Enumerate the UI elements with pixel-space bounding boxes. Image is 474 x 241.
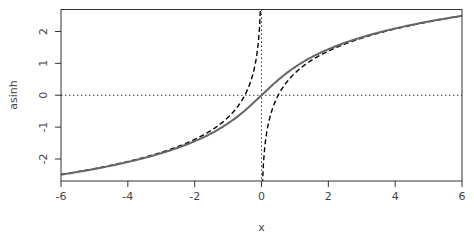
- dashed-curve-left: [61, 6, 261, 174]
- y-tick-label: -2: [37, 154, 50, 165]
- x-tick-label: 4: [392, 190, 399, 203]
- x-tick-label: -6: [56, 190, 67, 203]
- x-tick-label: -2: [189, 190, 200, 203]
- x-axis: -6-4-20246: [56, 181, 466, 203]
- y-tick-label: 2: [37, 28, 50, 35]
- chart-canvas: -6-4-20246 -2-1012 x asinh: [0, 0, 474, 241]
- y-tick-label: 0: [37, 92, 50, 99]
- y-axis-label: asinh: [7, 80, 20, 109]
- plot-curves: [61, 6, 462, 184]
- y-axis: -2-1012: [37, 28, 61, 164]
- x-axis-label: x: [258, 221, 265, 234]
- y-tick-label: 1: [37, 60, 50, 67]
- x-tick-label: -4: [122, 190, 133, 203]
- x-tick-label: 2: [325, 190, 332, 203]
- y-tick-label: -1: [37, 122, 50, 133]
- x-tick-label: 6: [459, 190, 466, 203]
- x-tick-label: 0: [258, 190, 265, 203]
- dashed-curve-right: [263, 16, 463, 184]
